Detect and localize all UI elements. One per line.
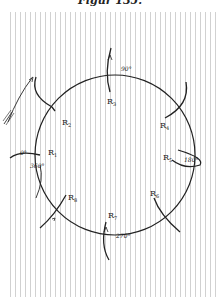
r8-arrow-icon: [52, 218, 55, 221]
main-circle: [35, 75, 195, 235]
label-90: 90°: [121, 65, 132, 72]
label-0: 0°: [20, 149, 27, 156]
r2-pointer-line: [8, 78, 32, 122]
label-r2: R2: [62, 118, 71, 128]
label-r3: R3: [107, 97, 116, 107]
label-180: 180°: [184, 156, 198, 163]
label-r6: R6: [150, 189, 159, 199]
label-r1: R1: [48, 148, 57, 158]
r8-arc: [40, 195, 66, 228]
label-270: 270°: [115, 232, 130, 239]
r6-arc: [154, 198, 180, 232]
label-360: 360°: [30, 162, 44, 169]
r3-arc: [107, 48, 111, 92]
hatched-weight-icon: [3, 110, 14, 125]
label-r4: R4: [160, 121, 169, 131]
rotation-diagram: 90° R3 R2 0° 360° R1 R4 180° R5 R6 270° …: [0, 0, 220, 297]
label-r5: R5: [163, 153, 172, 163]
label-r8: R8: [68, 193, 77, 203]
label-r7: R7: [108, 211, 117, 221]
